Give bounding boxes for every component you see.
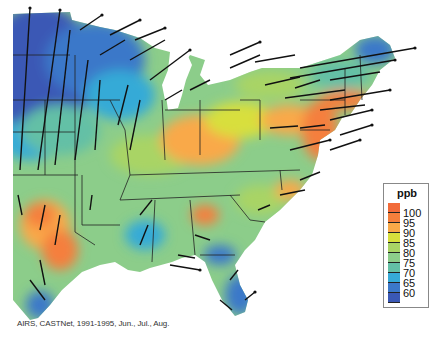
legend-swatch [388,293,400,303]
legend-swatches [388,203,400,303]
legend-swatch [388,233,400,243]
ozone-map [0,0,432,341]
legend-swatch [388,263,400,273]
figure-caption: AIRS, CASTNet, 1991-1995, Jun., Jul., Au… [17,319,169,328]
legend: ppb 100 95 90 85 80 75 70 65 60 [383,183,429,308]
legend-label: 60 [403,288,421,298]
legend-title: ppb [384,187,430,199]
ozone-shading [0,0,432,341]
legend-swatch [388,203,400,213]
legend-swatch [388,243,400,253]
legend-swatch [388,253,400,263]
legend-swatch [388,213,400,223]
legend-swatch [388,223,400,233]
legend-swatch [388,273,400,283]
legend-swatch [388,283,400,293]
legend-labels: 100 95 90 85 80 75 70 65 60 [403,208,421,298]
